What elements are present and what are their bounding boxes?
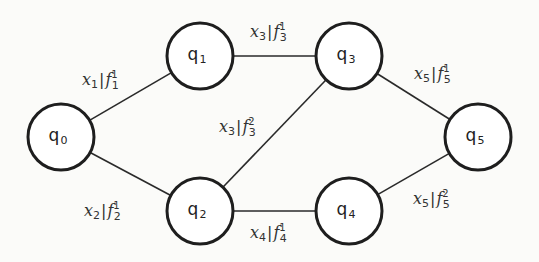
state-node-q3: q3 bbox=[316, 23, 382, 89]
edge-q0-q2 bbox=[90, 153, 171, 196]
state-node-q0: q0 bbox=[28, 104, 94, 170]
state-node-q4: q4 bbox=[316, 178, 382, 244]
edges-layer bbox=[90, 56, 451, 211]
edge-label-q0-q1: x1|f11 bbox=[82, 69, 119, 92]
state-diagram: q0q1q2q3q4q5 x1|f11x2|f12x3|f13x3|f23x4|… bbox=[0, 0, 539, 262]
edge-label-q2-q3: x3|f23 bbox=[219, 116, 256, 139]
state-node-q1: q1 bbox=[167, 23, 233, 89]
edge-label-q3-q5: x5|f15 bbox=[414, 63, 451, 86]
edge-label-q1-q3: x3|f13 bbox=[250, 21, 287, 44]
state-node-q5: q5 bbox=[445, 104, 511, 170]
edge-label-q4-q5: x5|f25 bbox=[413, 188, 450, 211]
state-node-q2: q2 bbox=[167, 178, 233, 244]
edge-label-q2-q4: x4|f14 bbox=[250, 222, 287, 245]
edge-label-q0-q2: x2|f12 bbox=[84, 200, 121, 223]
